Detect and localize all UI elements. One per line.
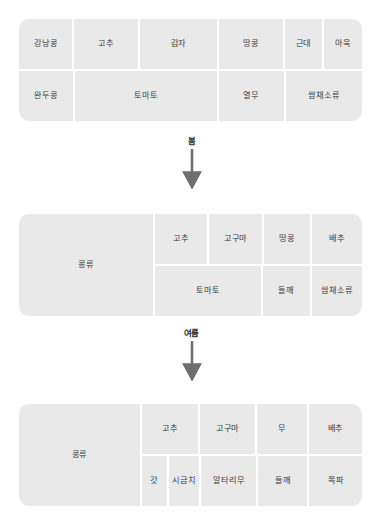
crop-block-2-span: 콩류 (18, 213, 154, 317)
crop-cell: 고구마 (199, 403, 257, 455)
crop-block-3: 콩류 고추 고구마 무 배추 갓 시금치 알타리무 들깨 쪽파 (18, 403, 363, 507)
connector-label: 봄 (188, 134, 196, 146)
crop-block-1: 강낭콩 고추 감자 땅콩 근대 아욱 완두콩 토마토 열무 쌈채소류 (18, 18, 363, 122)
crop-cell: 쌈채소류 (285, 70, 363, 122)
crop-block-1-row-1: 강낭콩 고추 감자 땅콩 근대 아욱 (18, 18, 363, 70)
crop-cell: 갓 (141, 455, 168, 507)
arrow-down-icon (181, 149, 203, 189)
crop-cell: 배추 (308, 403, 363, 455)
crop-cell: 들깨 (257, 455, 308, 507)
crop-cell: 무 (256, 403, 308, 455)
crop-cell: 토마토 (154, 265, 261, 317)
crop-block-2-row-2: 토마토 들깨 쌈채소류 (154, 265, 363, 317)
crop-cell-span: 콩류 (18, 403, 141, 507)
crop-cell: 땅콩 (218, 18, 284, 70)
crop-cell-span: 콩류 (18, 213, 154, 317)
crop-cell: 시금치 (168, 455, 201, 507)
crop-cell: 근대 (284, 18, 324, 70)
flow-connector-spring: 봄 (0, 134, 383, 206)
crop-block-3-row-1: 고추 고구마 무 배추 (141, 403, 363, 455)
crop-block-1-rows: 강낭콩 고추 감자 땅콩 근대 아욱 완두콩 토마토 열무 쌈채소류 (18, 18, 363, 122)
crop-cell: 들깨 (262, 265, 311, 317)
connector-label: 여름 (184, 326, 200, 338)
crop-cell: 쌈채소류 (311, 265, 363, 317)
crop-cell: 토마토 (74, 70, 218, 122)
arrow-down-icon (181, 341, 203, 381)
flow-connector-summer: 여름 (0, 326, 383, 398)
crop-cell: 땅콩 (263, 213, 312, 265)
crop-block-1-row-2: 완두콩 토마토 열무 쌈채소류 (18, 70, 363, 122)
crop-block-3-row-2: 갓 시금치 알타리무 들깨 쪽파 (141, 455, 363, 507)
crop-cell: 고추 (154, 213, 208, 265)
crop-block-3-span: 콩류 (18, 403, 141, 507)
crop-block-3-rows: 고추 고구마 무 배추 갓 시금치 알타리무 들깨 쪽파 (141, 403, 363, 507)
crop-cell: 완두콩 (18, 70, 74, 122)
crop-cell: 감자 (139, 18, 217, 70)
crop-cell: 아욱 (323, 18, 363, 70)
crop-block-2-rows: 고추 고구마 땅콩 배추 토마토 들깨 쌈채소류 (154, 213, 363, 317)
crop-cell: 쪽파 (308, 455, 363, 507)
crop-cell: 배추 (311, 213, 363, 265)
crop-block-2: 콩류 고추 고구마 땅콩 배추 토마토 들깨 쌈채소류 (18, 213, 363, 317)
crop-block-2-row-1: 고추 고구마 땅콩 배추 (154, 213, 363, 265)
crop-cell: 강낭콩 (18, 18, 73, 70)
crop-rotation-diagram: 강낭콩 고추 감자 땅콩 근대 아욱 완두콩 토마토 열무 쌈채소류 봄 콩류 (0, 0, 383, 526)
crop-cell: 고추 (141, 403, 199, 455)
crop-cell: 열무 (218, 70, 285, 122)
crop-cell: 고구마 (208, 213, 262, 265)
crop-cell: 알타리무 (200, 455, 257, 507)
crop-cell: 고추 (73, 18, 139, 70)
